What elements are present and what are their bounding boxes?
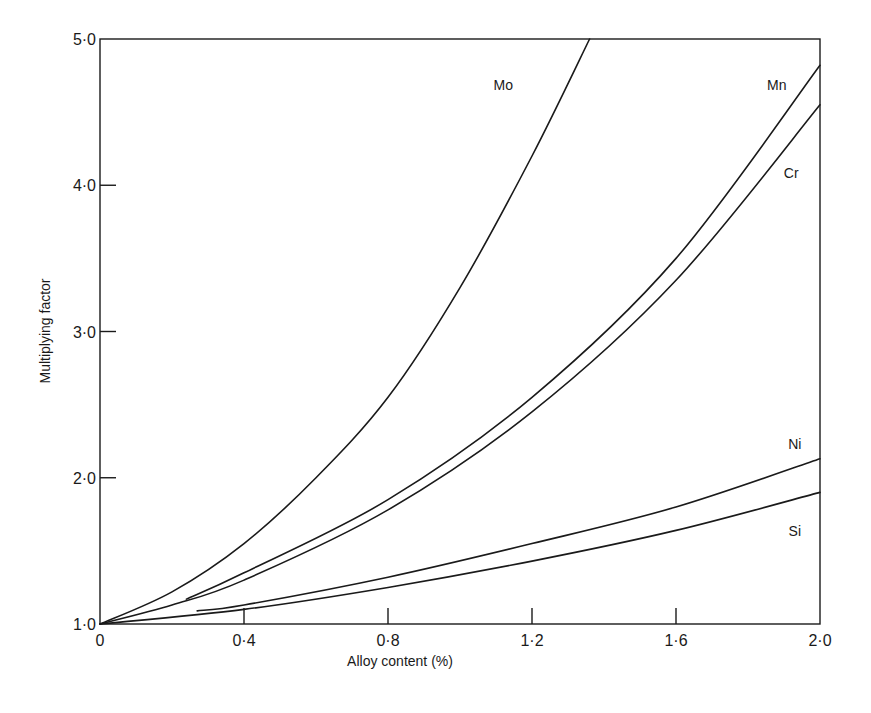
series-label-cr: Cr: [784, 165, 799, 181]
series-label-mn: Mn: [767, 77, 786, 93]
x-tick-label: 2·0: [808, 632, 831, 649]
series-line-mo: [100, 39, 590, 624]
series-label-ni: Ni: [788, 436, 801, 452]
x-tick-label: 1·2: [520, 632, 543, 649]
y-tick-label: 4·0: [73, 177, 96, 194]
y-tick-label: 2·0: [73, 470, 96, 487]
series-label-si: Si: [789, 523, 801, 539]
plot-frame: [100, 39, 820, 624]
series-line-cr: [100, 105, 820, 624]
x-tick-label: 0·4: [232, 632, 255, 649]
plot-border: [100, 39, 820, 624]
series-line-ni: [197, 459, 820, 611]
y-tick-label: 3·0: [73, 324, 96, 341]
chart: 00·40·81·21·62·01·02·03·04·05·0 MoMnCrNi…: [0, 0, 871, 713]
series-lines: [100, 39, 820, 624]
series-label-mo: Mo: [493, 77, 513, 93]
x-tick-label: 0: [96, 632, 105, 649]
axis-ticks: 00·40·81·21·62·01·02·03·04·05·0: [73, 31, 832, 649]
x-tick-label: 0·8: [376, 632, 399, 649]
series-line-si: [100, 492, 820, 624]
x-axis-title: Alloy content (%): [347, 653, 453, 669]
y-axis-title: Multiplying factor: [37, 278, 53, 383]
y-tick-label: 5·0: [73, 31, 96, 48]
series-line-mn: [186, 65, 820, 599]
x-tick-label: 1·6: [664, 632, 687, 649]
y-tick-label: 1·0: [73, 616, 96, 633]
series-labels: MoMnCrNiSi: [493, 77, 801, 539]
